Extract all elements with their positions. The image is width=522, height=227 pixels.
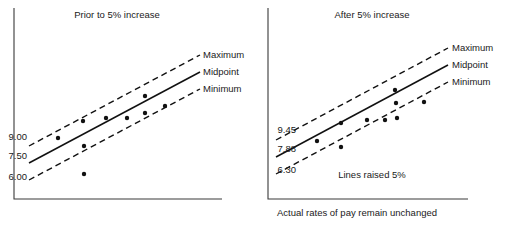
panel-prior-axes bbox=[14, 8, 222, 199]
panel-after-legend-maximum: Maximum bbox=[452, 42, 493, 53]
panel-after-tick-minimum: 6.30 bbox=[278, 164, 297, 175]
panel-after-midpoint-line bbox=[276, 65, 448, 157]
pay-structure-figure: Prior to 5% increase 9.00 7.50 6.00 Maxi… bbox=[0, 0, 522, 227]
panel-prior-legend-minimum: Minimum bbox=[203, 83, 242, 94]
panel-after-tick-midpoint: 7.88 bbox=[278, 143, 297, 154]
panel-prior-tick-maximum: 9.00 bbox=[9, 131, 28, 142]
panel-after-minimum-line bbox=[276, 82, 448, 174]
panel-prior-tick-midpoint: 7.50 bbox=[9, 150, 28, 161]
panel-prior-minimum-line bbox=[29, 89, 200, 180]
panel-after-datapoints bbox=[315, 88, 426, 149]
panel-after-legend-midpoint: Midpoint bbox=[452, 59, 488, 70]
figure-caption: Actual rates of pay remain unchanged bbox=[277, 207, 437, 218]
panel-prior-maximum-line bbox=[29, 55, 200, 146]
panel-after-tick-maximum: 9.45 bbox=[278, 124, 297, 135]
panel-prior-tick-minimum: 6.00 bbox=[9, 171, 28, 182]
panel-prior-datapoints bbox=[56, 94, 167, 176]
panel-prior-legend-maximum: Maximum bbox=[203, 49, 244, 60]
panel-after: After 5% increase 9.45 7.88 6.30 Maximum… bbox=[268, 8, 493, 199]
panel-prior-midpoint-line bbox=[29, 72, 200, 163]
panel-prior-legend-midpoint: Midpoint bbox=[203, 66, 239, 77]
panel-after-legend-minimum: Minimum bbox=[452, 76, 491, 87]
panel-after-title: After 5% increase bbox=[335, 9, 410, 20]
panel-after-maximum-line bbox=[276, 48, 448, 140]
panel-prior: Prior to 5% increase 9.00 7.50 6.00 Maxi… bbox=[9, 8, 245, 199]
panel-prior-title: Prior to 5% increase bbox=[74, 9, 160, 20]
panel-after-note: Lines raised 5% bbox=[338, 169, 406, 180]
